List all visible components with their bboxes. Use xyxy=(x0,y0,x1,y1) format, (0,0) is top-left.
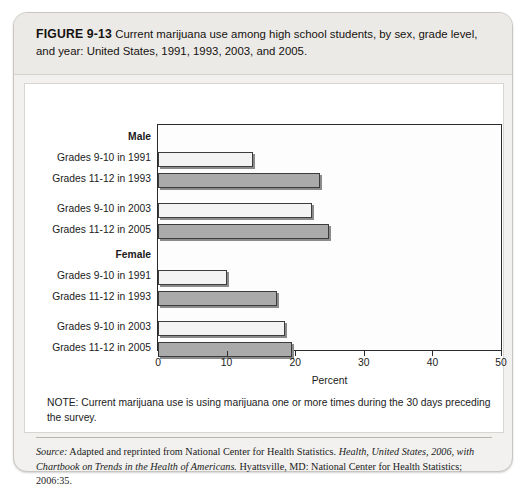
bar xyxy=(158,152,253,167)
figure-caption-band: FIGURE 9-13 Current marijuana use among … xyxy=(14,13,512,75)
plot-area xyxy=(157,124,502,351)
category-label-column: MaleGrades 9-10 in 1991Grades 11-12 in 1… xyxy=(25,124,157,351)
source-text-1: Adapted and reprinted from National Cent… xyxy=(67,446,338,457)
x-tick-mark xyxy=(295,351,296,356)
source-label: Source: xyxy=(36,446,67,457)
group-label-male: Male xyxy=(29,131,157,142)
x-tick-mark xyxy=(158,351,159,356)
category-label: Grades 9-10 in 2003 xyxy=(29,203,157,214)
x-tick-label: 10 xyxy=(221,357,232,368)
x-tick-label: 0 xyxy=(155,357,161,368)
x-tick-mark xyxy=(227,351,228,356)
x-axis-ticks: 01020304050 xyxy=(157,351,502,375)
x-tick-mark xyxy=(432,351,433,356)
source-note: Source: Adapted and reprinted from Natio… xyxy=(36,445,494,485)
figure-number: FIGURE 9-13 xyxy=(36,27,112,41)
bar xyxy=(158,291,277,306)
category-label: Grades 11-12 in 1993 xyxy=(29,291,157,302)
category-label: Grades 9-10 in 2003 xyxy=(29,321,157,332)
category-label: Grades 9-10 in 1991 xyxy=(29,152,157,163)
x-tick-mark xyxy=(501,351,502,356)
x-tick-label: 50 xyxy=(495,357,506,368)
bar xyxy=(158,203,312,218)
bar xyxy=(158,224,329,239)
source-divider xyxy=(36,437,492,438)
bar xyxy=(158,321,285,336)
category-label: Grades 11-12 in 2005 xyxy=(29,224,157,235)
chart-card: MaleGrades 9-10 in 1991Grades 11-12 in 1… xyxy=(24,83,504,433)
x-tick-label: 40 xyxy=(427,357,438,368)
x-tick-label: 20 xyxy=(289,357,300,368)
category-label: Grades 11-12 in 1993 xyxy=(29,173,157,184)
chart-note: NOTE: Current marijuana use is using mar… xyxy=(47,396,493,425)
bar xyxy=(158,270,227,285)
bar xyxy=(158,173,320,188)
category-label: Grades 9-10 in 1991 xyxy=(29,270,157,281)
x-tick-mark xyxy=(364,351,365,356)
x-tick-label: 30 xyxy=(358,357,369,368)
figure-panel: FIGURE 9-13 Current marijuana use among … xyxy=(13,12,513,472)
x-axis-title: Percent xyxy=(157,375,502,386)
group-label-female: Female xyxy=(29,249,157,260)
figure-caption: FIGURE 9-13 Current marijuana use among … xyxy=(36,26,490,59)
category-label: Grades 11-12 in 2005 xyxy=(29,342,157,353)
